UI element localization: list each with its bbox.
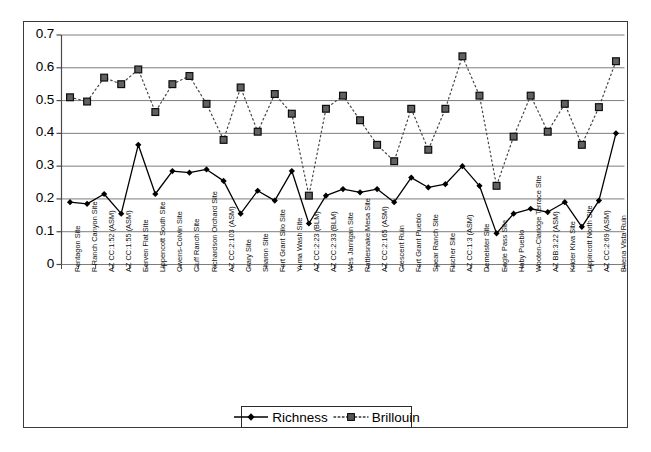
data-point-brillouin [288, 110, 295, 117]
data-point-brillouin [237, 84, 244, 91]
x-axis-category-label: AZ BB:3:22 (ASM) [551, 211, 560, 272]
x-axis-category-label: Fischer Site [448, 232, 457, 271]
data-point-brillouin [169, 81, 176, 88]
data-point-richness [613, 130, 619, 136]
x-axis-category-label: Owens-Colvin Site [175, 211, 184, 272]
x-axis-category-label: AZ CC:2:69 (ASM) [602, 210, 611, 272]
legend-marker-brillouin-icon [333, 410, 369, 424]
data-point-brillouin [101, 74, 108, 81]
x-axis-category-label: Rattlesnake Mesa Site [363, 198, 372, 272]
data-point-brillouin [84, 98, 91, 105]
y-axis-tick-label: 0.7 [18, 26, 54, 41]
data-point-brillouin [305, 192, 312, 199]
y-axis-tick-label: 0.3 [18, 157, 54, 172]
x-axis-category-label: Wes Jarnigan Site [346, 212, 355, 272]
data-point-richness [323, 193, 329, 199]
data-point-richness [67, 199, 73, 205]
data-point-brillouin [374, 141, 381, 148]
data-point-brillouin [476, 92, 483, 99]
y-axis-tick-label: 0.5 [18, 92, 54, 107]
data-point-richness [425, 184, 431, 190]
data-point-brillouin [493, 182, 500, 189]
data-point-brillouin [118, 81, 125, 88]
legend-item-brillouin: Brillouin [333, 410, 420, 425]
data-point-richness [528, 206, 534, 212]
data-point-richness [545, 209, 551, 215]
data-point-brillouin [561, 100, 568, 107]
data-point-brillouin [357, 117, 364, 124]
y-axis-tick-label: 0 [18, 256, 54, 271]
x-axis-category-label: AZ CC:1:55 (ASM) [124, 210, 133, 272]
data-point-brillouin [135, 66, 142, 73]
chart-legend: Richness Brillouin [241, 406, 412, 428]
y-axis-tick-label: 0.6 [18, 59, 54, 74]
x-axis-category-label: Crary Site [244, 239, 253, 272]
data-point-richness [186, 170, 192, 176]
data-point-brillouin [271, 91, 278, 98]
y-axis-tick-label: 0.4 [18, 124, 54, 139]
data-point-brillouin [425, 146, 432, 153]
x-axis-category-label: Crescent Ruin [397, 225, 406, 272]
x-axis-category-label: Cluff Ranch Site [192, 218, 201, 271]
x-axis-category-label: AZ CC:2:23 (BLM) [312, 211, 321, 272]
data-point-brillouin [527, 92, 534, 99]
data-point-brillouin [544, 128, 551, 135]
data-point-brillouin [152, 109, 159, 116]
data-point-brillouin [596, 104, 603, 111]
x-axis-category-label: Richardson Orchard Site [210, 191, 219, 272]
x-axis-category-label: AZ CC:2:103 (ASM) [227, 206, 236, 272]
data-point-brillouin [186, 73, 193, 80]
x-axis-category-label: Lippincott North Site [585, 205, 594, 272]
data-point-brillouin [254, 128, 261, 135]
x-axis-category-label: Wooten-Claridge Terrace Site [534, 175, 543, 272]
x-axis-category-label: Eagle Pass Site [500, 219, 509, 271]
x-axis-category-label: AZ CC:2:33 (BLM) [329, 211, 338, 272]
data-point-brillouin [459, 53, 466, 60]
legend-label-brillouin: Brillouin [372, 410, 420, 425]
x-axis-category-label: Haby Pueblo [517, 229, 526, 271]
data-point-brillouin [510, 133, 517, 140]
data-point-richness [340, 186, 346, 192]
data-point-richness [272, 197, 278, 203]
y-axis-tick-label: 0.2 [18, 190, 54, 205]
legend-item-richness: Richness [233, 410, 328, 425]
x-axis-category-label: Sharon Site [261, 233, 270, 272]
x-axis-category-label: Yuma Wash Site [295, 217, 304, 271]
x-axis-category-label: Pentagon Site [73, 225, 82, 271]
y-axis-tick-label: 0.1 [18, 223, 54, 238]
data-point-brillouin [391, 158, 398, 165]
x-axis-category-label: Lippencott South Site [158, 201, 167, 271]
x-axis-category-label: Fort Grant Pueblo [414, 213, 423, 272]
data-point-brillouin [442, 105, 449, 112]
x-axis-category-label: Fort Grant Silo Site [278, 209, 287, 272]
x-axis-category-label: AZ CC:1:52 (ASM) [107, 210, 116, 272]
data-point-brillouin [220, 137, 227, 144]
data-point-brillouin [203, 100, 210, 107]
x-axis-category-label: Buena Vista Ruin [619, 215, 628, 272]
data-point-richness [135, 142, 141, 148]
data-point-brillouin [578, 141, 585, 148]
x-axis-category-label: AZ CC:1:3 (ASM) [465, 214, 474, 272]
x-axis-category-label: P Ranch Canyon Site [90, 201, 99, 272]
legend-marker-richness-icon [233, 410, 269, 424]
x-axis-category-label: Demeister Site [482, 223, 491, 271]
data-point-brillouin [408, 105, 415, 112]
x-axis-category-label: AZ CC:2:165 (ASM) [380, 206, 389, 272]
chart-page: 00.10.20.30.40.50.60.7 Pentagon SiteP Ra… [0, 0, 651, 452]
data-point-brillouin [67, 94, 74, 101]
data-point-richness [357, 189, 363, 195]
data-point-brillouin [613, 58, 620, 65]
x-axis-category-label: Eerven Flat Site [141, 219, 150, 272]
data-point-richness [289, 168, 295, 174]
x-axis-category-label: Spear Ranch Site [431, 214, 440, 272]
x-axis-category-label: Krider Kiva Site [568, 221, 577, 272]
data-point-brillouin [323, 105, 330, 112]
axes-group [57, 35, 62, 265]
legend-label-richness: Richness [272, 410, 328, 425]
data-point-brillouin [340, 92, 347, 99]
